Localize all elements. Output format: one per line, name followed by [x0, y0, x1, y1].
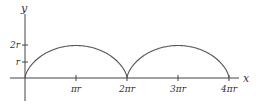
x-tick-label-pir: πr — [70, 84, 82, 94]
x-tick-label-3pir: 3πr — [170, 84, 187, 94]
cycloid-diagram: x y 2r r πr 2πr 3πr 4πr — [0, 0, 264, 106]
y-tick-label-2r: 2r — [9, 40, 21, 50]
x-axis-label: x — [243, 72, 250, 85]
y-axis-label: y — [20, 2, 28, 15]
y-tick-label-r: r — [16, 57, 21, 67]
x-tick-label-2pir: 2πr — [118, 84, 136, 94]
x-tick-label-4pir: 4πr — [220, 84, 238, 94]
cycloid-curve — [25, 46, 229, 78]
